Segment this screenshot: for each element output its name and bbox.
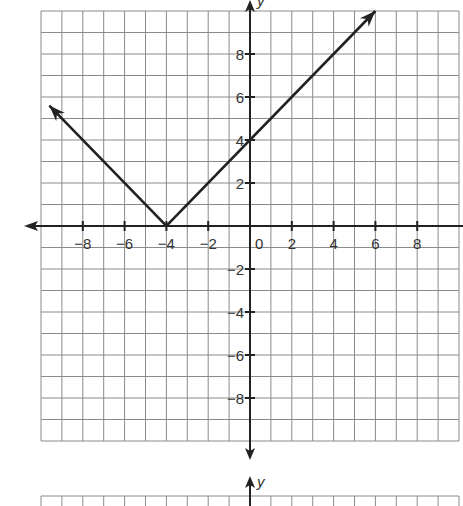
y-tick-label: 6	[236, 89, 244, 106]
x-tick-label: 8	[413, 235, 421, 252]
y-axis-label: y	[256, 0, 266, 9]
y-tick-label: −2	[227, 261, 244, 278]
x-tick-label: −2	[200, 235, 217, 252]
y-tick-label: 8	[236, 46, 244, 63]
x-tick-label: 4	[329, 235, 337, 252]
y-tick-label: 2	[236, 175, 244, 192]
x-tick-label: −4	[158, 235, 175, 252]
x-tick-label: −6	[116, 235, 133, 252]
x-tick-label: 0	[255, 235, 263, 252]
y-tick-label: −4	[227, 304, 244, 321]
x-tick-label: −8	[74, 235, 91, 252]
coordinate-plane: y y −8−6−4−2024682468−2−4−6−8	[0, 0, 463, 506]
y-tick-label: −6	[227, 347, 244, 364]
x-tick-label: 6	[371, 235, 379, 252]
second-y-axis-label: y	[256, 473, 266, 490]
y-tick-label: −8	[227, 390, 244, 407]
x-tick-label: 2	[288, 235, 296, 252]
